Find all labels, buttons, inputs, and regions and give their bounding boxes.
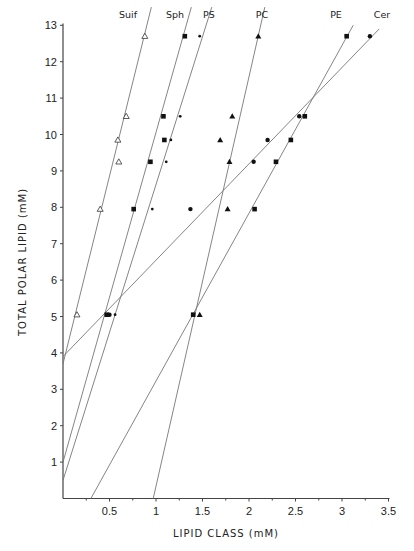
point-cer bbox=[107, 312, 111, 316]
series-label-pc: PC bbox=[256, 9, 269, 20]
series-label-ps: PS bbox=[203, 9, 215, 20]
fit-line-cer bbox=[63, 29, 379, 357]
y-tick-label: 2 bbox=[51, 420, 57, 432]
point-ps bbox=[179, 115, 182, 118]
point-cer bbox=[297, 114, 301, 118]
fit-lines bbox=[63, 7, 379, 498]
point-pe bbox=[191, 312, 196, 317]
x-tick-label: 1 bbox=[153, 505, 159, 517]
series-label-sph: Sph bbox=[166, 9, 184, 20]
y-tick-label: 13 bbox=[45, 19, 57, 31]
point-pc bbox=[226, 159, 232, 164]
y-tick-label: 9 bbox=[51, 165, 57, 177]
axes: 123456789101112130.511.522.533.5 bbox=[45, 19, 396, 516]
point-cer bbox=[368, 34, 372, 38]
x-tick-label: 3 bbox=[339, 505, 345, 517]
series-labels: SuifSphPSPCPECer bbox=[119, 9, 390, 20]
y-tick-label: 4 bbox=[51, 347, 57, 359]
point-ps bbox=[114, 313, 117, 316]
y-tick-label: 7 bbox=[51, 238, 57, 250]
point-pc bbox=[229, 113, 235, 118]
point-sph bbox=[161, 114, 166, 119]
x-tick-label: 2 bbox=[246, 505, 252, 517]
point-ps bbox=[169, 139, 172, 142]
point-pe bbox=[344, 34, 349, 39]
y-tick-label: 8 bbox=[51, 201, 57, 213]
fit-line-pc bbox=[153, 7, 265, 498]
point-pe bbox=[303, 114, 308, 119]
series-label-suif: Suif bbox=[119, 9, 138, 20]
x-tick-label: 2.5 bbox=[288, 505, 303, 517]
point-pc bbox=[217, 137, 223, 142]
point-ps bbox=[198, 35, 201, 38]
point-suif bbox=[116, 159, 122, 164]
x-tick-label: 1.5 bbox=[195, 505, 210, 517]
point-pe bbox=[289, 138, 294, 143]
chart: 123456789101112130.511.522.533.5 SuifSph… bbox=[0, 0, 414, 551]
point-sph bbox=[183, 34, 188, 39]
y-tick-label: 5 bbox=[51, 311, 57, 323]
x-tick-label: 3.5 bbox=[381, 505, 396, 517]
x-axis-title: LIPID CLASS (mM) bbox=[173, 528, 279, 539]
point-pc bbox=[255, 33, 261, 38]
point-pe bbox=[274, 160, 279, 165]
point-pc bbox=[225, 206, 231, 211]
point-suif bbox=[142, 33, 148, 38]
y-tick-label: 11 bbox=[46, 92, 57, 104]
y-axis-title: TOTAL POLAR LIPID (mM) bbox=[17, 188, 28, 337]
y-tick-label: 3 bbox=[51, 383, 57, 395]
fit-line-ps bbox=[63, 7, 212, 480]
point-sph bbox=[162, 138, 167, 143]
point-sph bbox=[148, 160, 153, 165]
point-cer bbox=[251, 160, 255, 164]
series-label-pe: PE bbox=[330, 9, 342, 20]
fit-line-sph bbox=[63, 7, 191, 462]
point-cer bbox=[188, 207, 192, 211]
series-label-cer: Cer bbox=[374, 9, 390, 20]
y-tick-label: 1 bbox=[51, 456, 57, 468]
y-tick-label: 10 bbox=[45, 129, 57, 141]
y-tick-label: 12 bbox=[45, 56, 57, 68]
point-ps bbox=[151, 208, 154, 211]
point-suif bbox=[115, 137, 121, 142]
point-cer bbox=[265, 138, 269, 142]
x-tick-label: 0.5 bbox=[102, 505, 117, 517]
point-pc bbox=[197, 312, 203, 317]
point-ps bbox=[165, 160, 168, 163]
data-points bbox=[74, 33, 372, 317]
point-sph bbox=[131, 207, 136, 212]
y-tick-label: 6 bbox=[51, 274, 57, 286]
point-pe bbox=[252, 207, 257, 212]
